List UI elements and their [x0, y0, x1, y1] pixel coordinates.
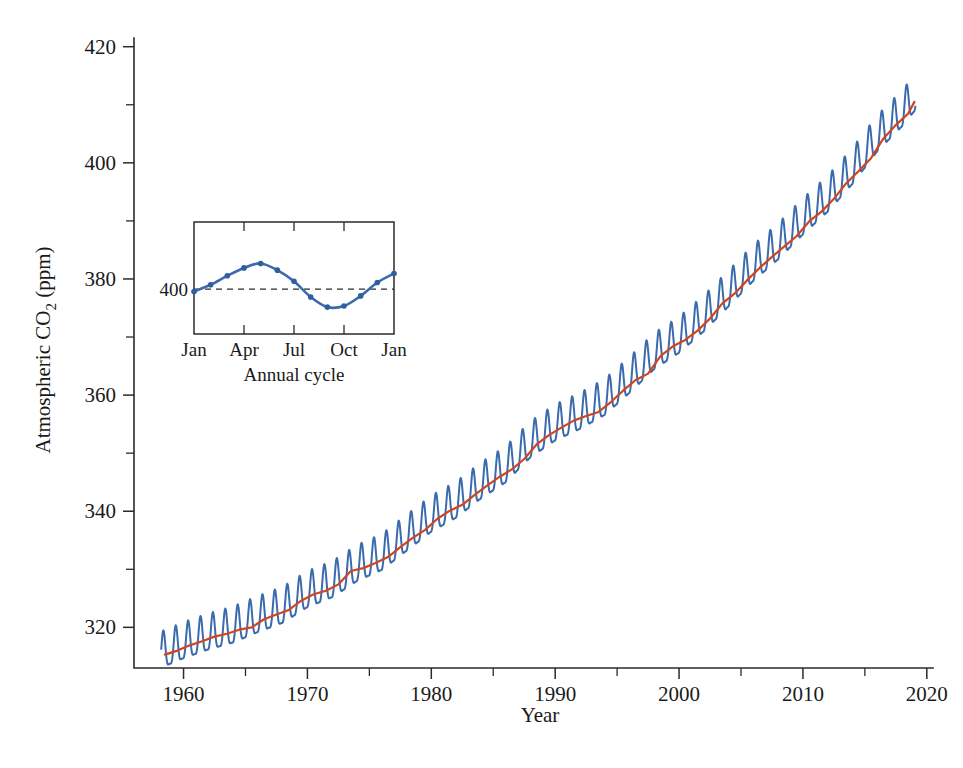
y-tick-label: 340 [85, 499, 117, 523]
inset-x-tick-label: Jul [283, 339, 305, 360]
inset-x-axis-title: Annual cycle [244, 364, 345, 385]
x-tick-label: 1980 [410, 682, 452, 706]
inset-data-point [241, 265, 247, 271]
inset-x-tick-labels: JanAprJulOctJan [181, 339, 407, 360]
x-tick-label: 1960 [163, 682, 205, 706]
inset-x-tick-label: Apr [229, 339, 259, 360]
y-axis-tick-labels: 320340360380400420 [85, 35, 117, 640]
x-tick-label: 2020 [906, 682, 948, 706]
inset-data-point [341, 303, 347, 309]
inset-data-point [258, 261, 264, 267]
x-tick-label: 1970 [286, 682, 328, 706]
inset-data-point [308, 294, 314, 300]
svg-text:Atmospheric CO2 (ppm): Atmospheric CO2 (ppm) [31, 247, 59, 454]
x-tick-label: 2010 [782, 682, 824, 706]
inset-x-tick-label: Jan [381, 339, 407, 360]
y-tick-label: 400 [85, 151, 117, 175]
x-tick-label: 2000 [658, 682, 700, 706]
inset-data-point [208, 282, 214, 288]
inset-data-point [358, 293, 364, 299]
y-tick-label: 320 [85, 615, 117, 639]
x-axis-title: Year [521, 703, 560, 727]
inset-data-point [325, 304, 331, 310]
inset-data-point [191, 289, 197, 295]
inset-data-point [291, 279, 297, 285]
inset-data-point [391, 271, 397, 277]
inset-y-tick-label: 400 [160, 279, 189, 300]
co2-chart: 320340360380400420 196019701980199020002… [0, 0, 963, 768]
inset-x-tick-label: Jan [181, 339, 207, 360]
inset-data-point [375, 280, 381, 286]
x-axis-major-ticks [184, 668, 927, 679]
inset-data-point [225, 273, 231, 279]
inset-annual-cycle: 400 JanAprJulOctJan Annual cycle [160, 222, 408, 385]
y-tick-label: 380 [85, 267, 117, 291]
y-axis-title: Atmospheric CO2 (ppm) [31, 247, 59, 454]
y-tick-label: 360 [85, 383, 117, 407]
figure-root: 320340360380400420 196019701980199020002… [0, 0, 963, 768]
inset-x-tick-label: Oct [330, 339, 358, 360]
y-axis-minor-ticks [126, 105, 134, 570]
inset-data-point [275, 267, 281, 273]
y-tick-label: 420 [85, 35, 117, 59]
